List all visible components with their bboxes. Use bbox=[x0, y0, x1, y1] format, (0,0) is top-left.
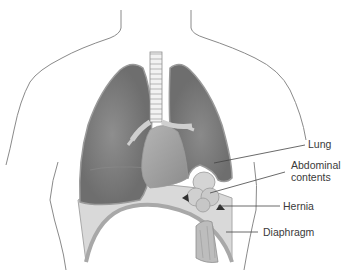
label-hernia: Hernia bbox=[283, 200, 314, 212]
label-diaphragm: Diaphragm bbox=[263, 226, 314, 238]
label-lung: Lung bbox=[308, 138, 331, 150]
hernia-diagram: Lung Abdominal contents Hernia Diaphragm bbox=[0, 0, 343, 273]
label-abdominal-line1: Abdominal bbox=[291, 159, 341, 171]
label-abdominal-line2: contents bbox=[291, 171, 331, 183]
left-lung bbox=[80, 64, 152, 204]
